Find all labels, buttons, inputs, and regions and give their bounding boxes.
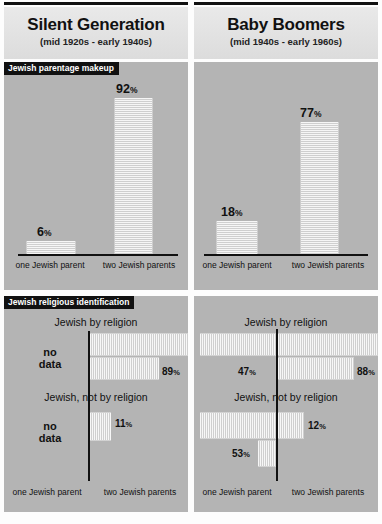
group-title-religion-left: Jewish by religion	[4, 316, 188, 328]
axis-center-left	[88, 331, 90, 481]
cat-label-one-parent-right: one Jewish parent	[196, 260, 278, 270]
cat-label-one-parent-lower-right: one Jewish parent	[196, 487, 278, 497]
axis-center-right	[276, 329, 278, 481]
value-label-not-religion-two-parents-left: 11%	[115, 418, 132, 429]
value-label-religion-one-parent-right: 47%	[238, 366, 256, 377]
bar-religion-two-parents-right	[276, 357, 354, 380]
panel-identification-right: Jewish by religion 47% 88% Jewish, not b…	[194, 296, 378, 512]
bar-religion-top-right	[200, 333, 378, 356]
group-title-religion-right: Jewish by religion	[194, 316, 378, 328]
cat-label-two-parents-left: two Jewish parents	[96, 260, 182, 270]
page-subtitle-left: (mid 1920s - early 1940s)	[4, 36, 188, 47]
value-label-two-parents-right: 77%	[300, 106, 321, 120]
value-label-two-parents-left: 92%	[116, 82, 137, 96]
value-label-religion-two-parents-left: 89%	[162, 366, 180, 377]
page-subtitle-right: (mid 1940s - early 1960s)	[194, 36, 378, 47]
panel-parentage-right: 18% 77% one Jewish parent two Jewish par…	[194, 62, 378, 290]
banner-parentage: Jewish parentage makeup	[4, 62, 119, 75]
bar-two-parents-right	[300, 122, 339, 254]
value-label-not-religion-one-parent-right: 53%	[232, 448, 250, 459]
bar-not-religion-two-parents-left	[90, 412, 111, 441]
banner-identification: Jewish religious identification	[4, 296, 134, 309]
panel-parentage-left: Jewish parentage makeup 6% 92% one Jewis…	[4, 62, 188, 290]
page-title-right: Baby Boomers	[194, 7, 378, 35]
value-label-religion-two-parents-right: 88%	[357, 366, 375, 377]
bar-religion-top-left	[90, 333, 188, 356]
value-label-one-parent-right: 18%	[221, 205, 242, 219]
no-data-not-religion-left: no data	[22, 420, 78, 444]
infographic-sheet: Silent Generation (mid 1920s - early 194…	[0, 0, 382, 524]
axis-baseline-right	[204, 254, 368, 256]
header-baby-boomers: Baby Boomers (mid 1940s - early 1960s)	[194, 7, 378, 59]
value-label-not-religion-two-parents-right: 12%	[308, 420, 326, 431]
bar-one-parent-right	[216, 221, 258, 254]
page-title-left: Silent Generation	[4, 7, 188, 35]
cat-label-one-parent-left: one Jewish parent	[10, 260, 90, 270]
bar-two-parents-left	[114, 98, 153, 254]
top-rule-left	[4, 2, 188, 5]
cat-label-one-parent-lower-left: one Jewish parent	[6, 487, 88, 497]
bar-not-religion-top-right	[200, 412, 304, 439]
bar-not-religion-one-parent-right	[258, 440, 278, 467]
cat-label-two-parents-lower-left: two Jewish parents	[96, 487, 184, 497]
value-label-one-parent-left: 6%	[37, 225, 52, 239]
top-rule-right	[194, 2, 378, 5]
no-data-religion-left: no data	[22, 346, 78, 370]
panel-identification-left: Jewish religious identification Jewish b…	[4, 296, 188, 512]
cat-label-two-parents-lower-right: two Jewish parents	[284, 487, 372, 497]
cat-label-two-parents-right: two Jewish parents	[284, 260, 372, 270]
group-title-not-religion-right: Jewish, not by religion	[194, 391, 378, 403]
header-silent-generation: Silent Generation (mid 1920s - early 194…	[4, 7, 188, 59]
group-title-not-religion-left: Jewish, not by religion	[4, 391, 188, 403]
axis-baseline-left	[18, 254, 178, 256]
bar-religion-two-parents-left	[90, 357, 159, 380]
bar-one-parent-left	[26, 241, 76, 254]
